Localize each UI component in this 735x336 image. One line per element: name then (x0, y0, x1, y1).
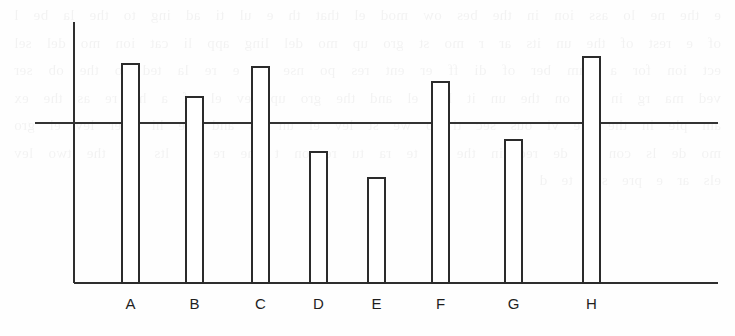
bar-c (252, 67, 269, 283)
bar-a (122, 64, 139, 283)
x-tick-label-f: F (436, 295, 445, 312)
chart-axes (74, 22, 718, 283)
bar-f (432, 82, 449, 283)
bar-g (505, 140, 522, 283)
x-tick-label-d: D (313, 295, 324, 312)
bar-series (122, 57, 600, 283)
x-tick-label-a: A (125, 295, 135, 312)
bar-h (583, 57, 600, 283)
bar-d (310, 152, 327, 283)
x-tick-label-c: C (255, 295, 266, 312)
bar-chart-figure: ABCDEFGH (0, 0, 735, 336)
x-tick-label-h: H (586, 295, 597, 312)
x-tick-label-g: G (508, 295, 520, 312)
x-tick-label-e: E (371, 295, 381, 312)
x-tick-label-b: B (189, 295, 199, 312)
category-axis-labels: ABCDEFGH (125, 295, 596, 312)
bar-e (368, 178, 385, 283)
bar-chart-canvas: ABCDEFGH (0, 0, 735, 336)
bar-b (186, 97, 203, 283)
